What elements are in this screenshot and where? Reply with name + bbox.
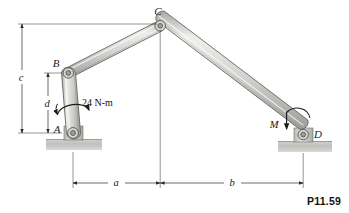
figure-container: B C A D c d bbox=[0, 0, 349, 213]
reaction-moment-label: M bbox=[269, 119, 280, 130]
ground-base-a bbox=[46, 139, 102, 150]
pin-joint-d bbox=[298, 129, 308, 139]
ground-base-d bbox=[278, 141, 332, 152]
dimension-c[interactable]: c bbox=[14, 24, 29, 133]
applied-couple-label: 24 N-m bbox=[82, 97, 113, 108]
figure-number-label: P11.59 bbox=[307, 195, 341, 207]
extension-lines bbox=[18, 24, 303, 188]
dimension-b[interactable]: b bbox=[160, 175, 303, 189]
dimension-label-a: a bbox=[113, 177, 118, 188]
dimension-label-d: d bbox=[44, 98, 50, 109]
joint-label-b: B bbox=[53, 57, 60, 69]
dimension-label-b: b bbox=[229, 177, 234, 188]
dimension-label-c: c bbox=[19, 72, 24, 83]
joint-label-c: C bbox=[154, 5, 162, 17]
link-bc bbox=[64, 19, 165, 79]
mechanism-diagram: B C A D c d bbox=[0, 0, 349, 213]
joint-label-d: D bbox=[313, 128, 322, 140]
pin-joint-a bbox=[68, 128, 79, 139]
dimension-a[interactable]: a bbox=[73, 175, 160, 189]
pin-joint-b bbox=[63, 68, 73, 78]
pin-joint-c bbox=[155, 21, 166, 32]
link-cd bbox=[156, 11, 308, 129]
